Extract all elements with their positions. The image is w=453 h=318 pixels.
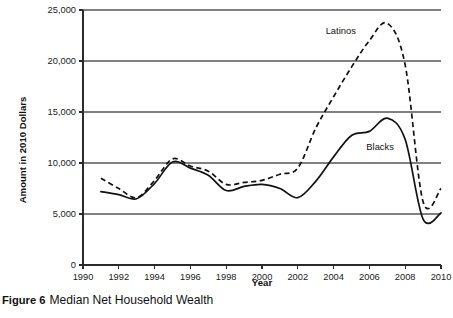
y-axis-title: Amount in 2010 Dollars — [17, 97, 28, 204]
series-group — [101, 23, 441, 224]
x-tick-label: 1998 — [216, 272, 237, 282]
x-tick-label: 2010 — [431, 272, 452, 282]
x-tick-label: 2002 — [287, 272, 308, 282]
y-tick-label: 0 — [71, 260, 76, 270]
x-tick-label: 1996 — [180, 272, 201, 282]
x-tick-label: 2008 — [395, 272, 416, 282]
y-tick-label: 5,000 — [53, 209, 76, 219]
chart-plot-area: 05,00010,00015,00020,00025,000 199019921… — [0, 0, 453, 290]
x-axis-title: Year — [252, 277, 273, 288]
series-line-blacks — [101, 118, 441, 223]
x-tick-label: 2006 — [359, 272, 380, 282]
x-tick-label: 1994 — [144, 272, 165, 282]
y-tick-label: 25,000 — [48, 5, 76, 15]
x-tick-label: 2004 — [323, 272, 344, 282]
x-tick-label: 1992 — [108, 272, 129, 282]
y-axis-tick-group: 05,00010,00015,00020,00025,000 — [48, 5, 83, 270]
y-tick-label: 15,000 — [48, 107, 76, 117]
figure-caption-text: Median Net Household Wealth — [50, 293, 214, 307]
gridline-group — [83, 10, 441, 214]
figure-number: Figure 6 — [2, 294, 46, 306]
figure-caption: Figure 6Median Net Household Wealth — [2, 293, 451, 308]
series-annotation-latinos: Latinos — [326, 25, 357, 36]
x-tick-label: 1990 — [73, 272, 94, 282]
series-line-latinos — [101, 23, 441, 209]
line-chart: 05,00010,00015,00020,00025,000 199019921… — [0, 0, 453, 290]
series-annotation-blacks: Blacks — [366, 141, 394, 152]
y-tick-label: 20,000 — [48, 56, 76, 66]
y-tick-label: 10,000 — [48, 158, 76, 168]
figure-container: 05,00010,00015,00020,00025,000 199019921… — [0, 0, 453, 318]
